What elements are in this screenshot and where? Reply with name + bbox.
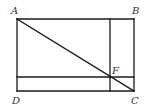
label-d: D [11,95,20,106]
label-f: F [111,65,120,76]
point-f-marker [109,76,112,79]
diagonal-ac [17,19,134,91]
geometry-diagram: A B C D F [0,0,148,110]
label-b: B [131,5,139,16]
label-a: A [10,5,18,16]
label-c: C [131,95,139,106]
